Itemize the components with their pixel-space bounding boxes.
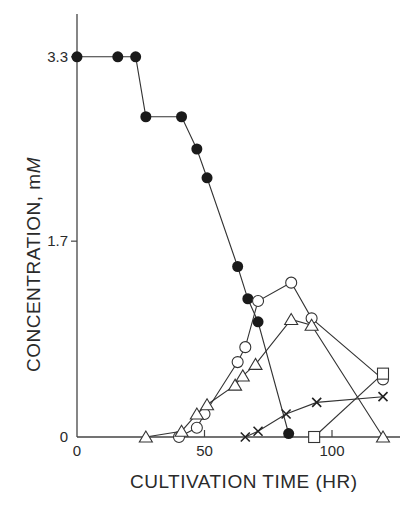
x-axis-label: CULTIVATION TIME (HR) [130,471,358,492]
filled-circle-marker [72,51,83,62]
chart-axes: 050100 01.73.3 [47,14,400,459]
filled-circle-marker [242,293,253,304]
series-open-triangle [139,313,389,442]
line-chart: 050100 01.73.3 CULTIVATION TIME (HR) CON… [0,0,415,509]
filled-circle-marker [253,316,264,327]
x-tick-label: 50 [196,442,213,459]
filled-circle-marker [202,172,213,183]
filled-circle-marker [191,144,202,155]
open-square-marker [309,432,320,443]
y-axis-label-unit: M [23,157,44,173]
open-triangle-marker [201,399,214,410]
series-layer [72,51,390,442]
filled-circle-marker [283,428,294,439]
x-tick-label: 100 [319,442,344,459]
x-tick-label: 0 [73,442,81,459]
y-tick-label: 1.7 [47,232,68,249]
open-triangle-marker [285,313,298,324]
open-triangle-marker [249,358,262,369]
series-filled-circle [72,51,295,439]
y-tick-label: 3.3 [47,48,68,65]
filled-circle-marker [130,51,141,62]
open-circle-marker [232,357,243,368]
open-circle-marker [240,342,251,353]
filled-circle-marker [112,51,123,62]
y-axis-label-main: CONCENTRATION, m [23,173,44,372]
x-ticks: 050100 [73,430,345,459]
filled-circle-marker [176,111,187,122]
x-cross-marker [254,427,263,436]
open-circle-marker [253,296,264,307]
filled-circle-marker [232,261,243,272]
y-axis-label: CONCENTRATION, mM [23,157,44,372]
open-square-marker [378,368,389,379]
open-circle-marker [286,277,297,288]
series-line [146,320,383,438]
open-circle-marker [191,422,202,433]
y-tick-label: 0 [60,428,68,445]
y-ticks: 01.73.3 [47,48,77,445]
filled-circle-marker [140,111,151,122]
